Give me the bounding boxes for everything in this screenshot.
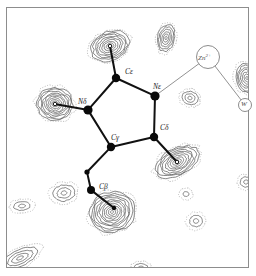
label-c-epsilon: Cε [125, 68, 133, 76]
label-n-epsilon: Nε [153, 83, 161, 91]
atom-label-layer: Cε Nε Nδ Cγ Cδ Cβ Zn2+ W [0, 0, 256, 276]
label-n-delta: Nδ [78, 98, 87, 106]
label-c-gamma: Cγ [111, 134, 119, 142]
electron-density-figure: Cε Nε Nδ Cγ Cδ Cβ Zn2+ W [0, 0, 256, 276]
label-zinc-ion: Zn2+ [198, 53, 211, 62]
label-water: W [241, 101, 247, 108]
label-c-delta: Cδ [160, 124, 169, 132]
label-c-beta: Cβ [99, 183, 108, 191]
